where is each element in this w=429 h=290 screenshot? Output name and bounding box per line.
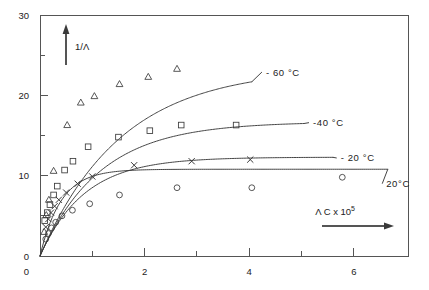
data-point-3-6 bbox=[87, 201, 93, 207]
data-point-2-4 bbox=[56, 197, 62, 203]
x-tick-label-6: 6 bbox=[351, 266, 356, 277]
series-leader-2 bbox=[333, 157, 337, 158]
data-point-0-4 bbox=[64, 122, 71, 128]
plot-canvas: 010203002461/ΛΛ C x 105- 60 °C-40 °C- 20… bbox=[0, 0, 429, 290]
data-point-0-7 bbox=[116, 81, 123, 87]
data-point-3-5 bbox=[70, 207, 76, 213]
series-leader-1 bbox=[304, 123, 309, 124]
data-point-3-9 bbox=[249, 185, 255, 191]
x-axis-arrow-head bbox=[384, 223, 394, 230]
data-point-0-9 bbox=[174, 65, 181, 71]
data-point-2-8 bbox=[131, 162, 137, 168]
data-point-1-4 bbox=[54, 183, 60, 189]
data-point-2-10 bbox=[247, 157, 253, 163]
data-point-0-3 bbox=[50, 167, 57, 173]
x-tick-label-0: 0 bbox=[24, 266, 29, 277]
data-point-0-6 bbox=[91, 93, 98, 99]
x-tick-label-4: 4 bbox=[247, 266, 252, 277]
x-axis-title-main: Λ C x 10 bbox=[315, 206, 351, 217]
series-label-3: 20°C bbox=[386, 178, 410, 189]
series-curve-2 bbox=[40, 157, 333, 256]
data-point-1-5 bbox=[62, 167, 68, 173]
x-axis-title: Λ C x 105 bbox=[315, 205, 355, 217]
series-label-2: - 20 °C bbox=[341, 152, 375, 163]
data-point-1-6 bbox=[70, 158, 76, 164]
series-label-1: -40 °C bbox=[313, 117, 344, 128]
y-tick-label-10: 10 bbox=[18, 170, 29, 181]
y-axis-title: 1/Λ bbox=[75, 41, 90, 52]
x-axis-title-exponent: 5 bbox=[351, 205, 355, 212]
data-point-3-10 bbox=[339, 174, 345, 180]
y-tick-label-30: 30 bbox=[18, 10, 29, 21]
series-label-0: - 60 °C bbox=[266, 67, 300, 78]
plot-frame bbox=[40, 15, 408, 256]
data-point-1-9 bbox=[147, 128, 153, 134]
series-curve-1 bbox=[40, 124, 304, 257]
series-leader-0 bbox=[252, 72, 262, 82]
data-point-1-7 bbox=[85, 144, 91, 150]
data-point-3-8 bbox=[174, 185, 180, 191]
y-axis-arrow-head bbox=[63, 24, 70, 34]
chart-figure: 010203002461/ΛΛ C x 105- 60 °C-40 °C- 20… bbox=[0, 0, 429, 290]
y-tick-label-20: 20 bbox=[18, 90, 29, 101]
x-tick-label-2: 2 bbox=[142, 266, 147, 277]
data-point-2-9 bbox=[189, 158, 195, 164]
data-point-0-5 bbox=[77, 99, 84, 105]
data-point-0-8 bbox=[145, 73, 152, 79]
data-point-1-10 bbox=[178, 122, 184, 128]
y-tick-label-0: 0 bbox=[24, 251, 29, 262]
data-point-3-7 bbox=[117, 192, 123, 198]
